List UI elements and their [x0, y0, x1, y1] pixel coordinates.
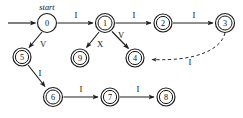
state-node-2[interactable]: 2 [154, 14, 172, 32]
transition-1-to-4-label: V [118, 30, 125, 40]
state-node-6-label: 6 [51, 93, 55, 102]
state-node-8-label: 8 [164, 93, 168, 102]
transition-3-to-4-arrow [152, 33, 225, 60]
transition-1-to-9[interactable]: X [87, 32, 104, 49]
state-node-7[interactable]: 7 [101, 88, 119, 106]
state-node-4[interactable]: 4 [126, 49, 144, 67]
state-diagram: start I I I V [0, 0, 243, 118]
state-node-4-label: 4 [133, 54, 137, 63]
transition-6-to-7[interactable]: I [64, 84, 99, 97]
state-node-9-label: 9 [78, 54, 82, 63]
state-node-6[interactable]: 6 [44, 88, 63, 107]
state-node-5[interactable]: 5 [13, 48, 31, 66]
state-diagram-canvas: start I I I V [0, 0, 243, 118]
transition-6-to-7-label: I [80, 84, 83, 94]
state-node-8[interactable]: 8 [157, 88, 175, 106]
transition-5-to-6-label: I [39, 68, 42, 78]
transition-0-to-5-label: V [40, 39, 47, 49]
transition-1-to-9-label: X [97, 39, 104, 49]
state-node-5-label: 5 [20, 53, 24, 62]
state-node-1[interactable]: 1 [96, 14, 115, 33]
transition-1-to-2-label: I [133, 10, 136, 20]
transition-1-to-2[interactable]: I [116, 10, 152, 23]
state-node-1-label: 1 [103, 19, 107, 28]
transition-3-to-4[interactable]: I [152, 33, 225, 67]
state-node-7-label: 7 [108, 93, 112, 102]
transition-7-to-8-label: I [137, 84, 140, 94]
state-node-3-label: 3 [223, 19, 227, 28]
transition-5-to-6-arrow [28, 65, 45, 87]
transition-0-to-5[interactable]: V [29, 32, 47, 49]
state-node-2-label: 2 [161, 19, 165, 28]
transition-3-to-4-label: I [189, 57, 192, 67]
transition-0-to-1-label: I [75, 10, 78, 20]
state-node-0[interactable]: 0 [38, 14, 57, 33]
transition-0-to-1[interactable]: I [58, 10, 94, 23]
state-node-9[interactable]: 9 [71, 49, 89, 67]
states-layer: 0 1 2 3 4 [13, 14, 235, 107]
transition-1-to-4[interactable]: V [112, 30, 129, 49]
transition-2-to-3[interactable]: I [173, 10, 213, 23]
transition-5-to-6[interactable]: I [28, 65, 45, 87]
transition-7-to-8[interactable]: I [120, 84, 154, 97]
state-node-3[interactable]: 3 [216, 14, 235, 33]
start-label: start [39, 3, 55, 12]
state-node-0-label: 0 [45, 19, 49, 28]
transition-2-to-3-label: I [193, 10, 196, 20]
transitions-layer: I I I V X [28, 10, 225, 97]
